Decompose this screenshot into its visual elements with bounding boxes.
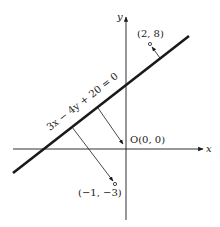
coordinate-diagram: x y 3x − 4y + 20 = 0 (2, 8) (−1, −3) O(0… (0, 0, 220, 227)
line-3x-4y-20 (13, 36, 189, 173)
point-b-label: (−1, −3) (78, 187, 122, 198)
point-a-marker (148, 42, 151, 45)
y-axis-label: y (116, 11, 123, 22)
x-axis-label: x (206, 143, 212, 154)
point-b-marker (113, 182, 116, 185)
perpendicular-to-point-b (72, 127, 113, 181)
perpendicular-to-origin (98, 108, 123, 144)
perpendicular-to-point-a (152, 47, 160, 58)
point-a-label: (2, 8) (137, 28, 164, 39)
origin-label: O(0, 0) (130, 134, 165, 145)
